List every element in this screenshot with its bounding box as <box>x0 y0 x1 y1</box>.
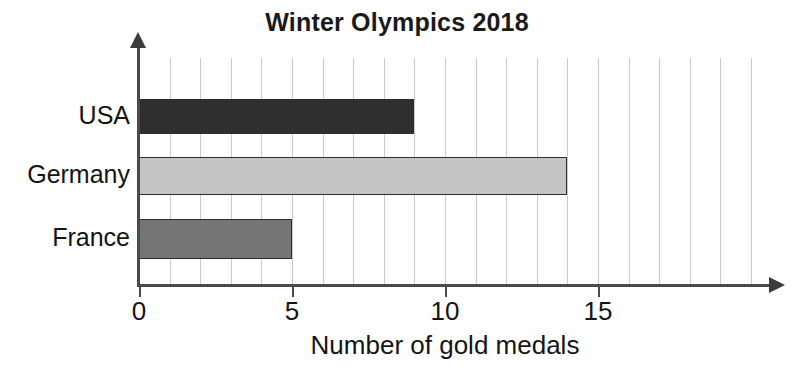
gridline <box>690 58 691 285</box>
x-axis-arrow-icon <box>769 277 785 293</box>
gridline <box>567 58 568 285</box>
y-axis-line <box>137 46 140 286</box>
x-tick-label: 5 <box>262 296 322 327</box>
gridline <box>751 58 752 285</box>
gridline <box>659 58 660 285</box>
x-tick-label: 0 <box>109 296 169 327</box>
plot-area <box>139 58 751 285</box>
bar-germany <box>139 157 567 195</box>
gridline <box>720 58 721 285</box>
category-label-usa: USA <box>0 101 130 130</box>
x-axis-title: Number of gold medals <box>139 330 751 361</box>
bar-usa <box>139 99 414 134</box>
gridline <box>629 58 630 285</box>
category-label-france: France <box>0 223 130 252</box>
bar-france <box>139 219 292 259</box>
gridline <box>598 58 599 285</box>
chart-title: Winter Olympics 2018 <box>0 8 794 37</box>
bar-chart: Winter Olympics 2018 051015 USAGermanyFr… <box>0 0 794 385</box>
category-label-germany: Germany <box>0 160 130 189</box>
x-tick-label: 10 <box>415 296 475 327</box>
x-axis-line <box>137 284 775 287</box>
x-tick-label: 15 <box>568 296 628 327</box>
y-axis-arrow-icon <box>130 32 146 48</box>
